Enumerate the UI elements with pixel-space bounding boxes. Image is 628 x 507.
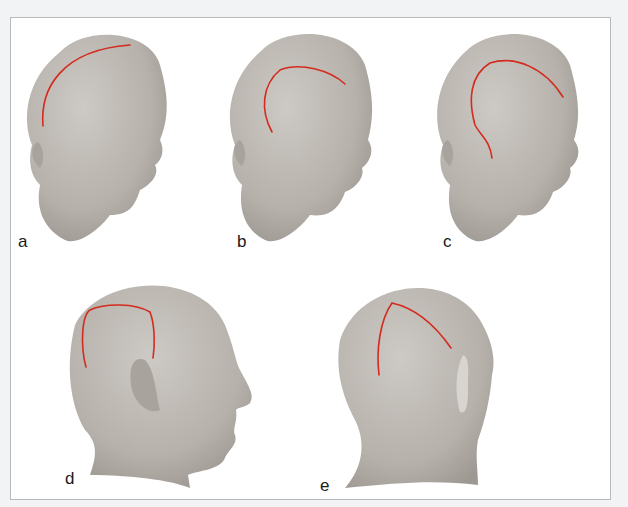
panel-d: d <box>50 270 300 507</box>
panel-a: a <box>0 0 210 260</box>
panel-label-c: c <box>443 233 452 250</box>
panel-e: e <box>300 270 530 507</box>
head-illustration-b <box>210 0 420 260</box>
panel-label-e: e <box>320 477 329 494</box>
head-illustration-a <box>0 0 210 260</box>
panel-label-a: a <box>18 233 27 250</box>
head-illustration-e <box>300 270 530 507</box>
head-illustration-d <box>50 270 300 507</box>
panel-label-b: b <box>237 233 246 250</box>
panel-label-d: d <box>65 470 74 487</box>
panel-b: b <box>210 0 420 260</box>
panel-c: c <box>420 0 620 260</box>
head-illustration-c <box>420 0 620 260</box>
